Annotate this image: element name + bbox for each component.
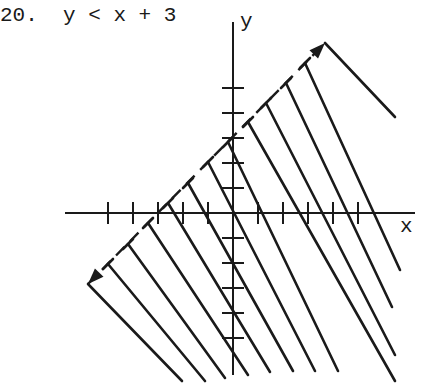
- arrowhead-icon: [88, 268, 103, 284]
- hatch-line: [266, 103, 395, 355]
- hatch-line: [325, 43, 395, 117]
- inequality-graph: [0, 0, 423, 388]
- hatch-line: [228, 142, 338, 371]
- arrowhead-icon: [310, 43, 325, 59]
- boundary-line-dashed: [88, 43, 325, 284]
- hatch-line: [305, 63, 400, 270]
- hatch-line: [286, 83, 392, 307]
- hatch-line: [168, 203, 270, 372]
- boundary-line: [88, 43, 325, 284]
- hatch-line: [188, 183, 293, 371]
